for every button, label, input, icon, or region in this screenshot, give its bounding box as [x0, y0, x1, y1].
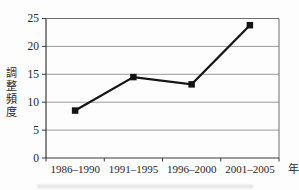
y-tick-label: 20 — [28, 40, 40, 52]
data-line — [75, 25, 250, 110]
y-tick-label: 10 — [28, 96, 40, 108]
x-tick-label: 1991–1995 — [109, 163, 159, 175]
data-point-marker — [130, 74, 137, 81]
line-chart-canvas: 05101520251986–19901991–19951996–2000200… — [0, 0, 299, 190]
y-axis-title-char: 整 — [6, 79, 17, 92]
y-axis-title-char: 調 — [6, 66, 17, 79]
data-point-marker — [247, 22, 254, 29]
x-axis-unit-label: 年 — [288, 162, 299, 175]
x-tick-label: 1986–1990 — [50, 163, 100, 175]
x-tick-label: 2001–2005 — [225, 163, 275, 175]
y-axis-title-char: 度 — [6, 105, 17, 118]
y-tick-label: 15 — [28, 68, 40, 80]
data-point-marker — [72, 107, 79, 114]
y-axis-title-char: 頻 — [6, 92, 17, 105]
x-tick-label: 1996–2000 — [167, 163, 217, 175]
line-chart-figure: 05101520251986–19901991–19951996–2000200… — [0, 0, 299, 190]
cutoff-caption-artifact — [37, 185, 253, 188]
y-tick-label: 5 — [33, 124, 39, 136]
y-tick-label: 25 — [28, 12, 40, 24]
data-point-marker — [188, 81, 195, 88]
y-tick-label: 0 — [33, 152, 39, 164]
